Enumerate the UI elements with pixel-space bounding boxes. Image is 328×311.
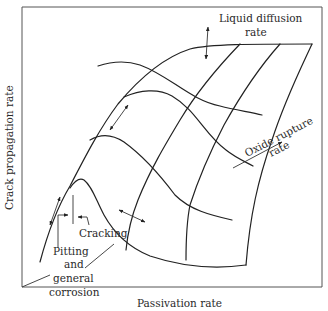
pitting-bracket — [58, 215, 68, 248]
arrow-liquid-diffusion — [206, 27, 208, 59]
pitting-leader — [85, 244, 114, 268]
mesh-row-cracking-peak — [70, 179, 246, 267]
label-pitting-line3: general — [53, 272, 94, 284]
arrow-upper-left — [110, 105, 128, 130]
label-liquid-diffusion-line2: rate — [245, 26, 267, 38]
mesh-row-2 — [124, 91, 253, 166]
mesh-row-3 — [90, 136, 232, 220]
crack-propagation-diagram: Liquid diffusion rate Oxide rupture rate… — [0, 0, 328, 311]
mesh-row-1 — [98, 62, 262, 115]
labels: Liquid diffusion rate Oxide rupture rate… — [3, 12, 315, 309]
x-axis-label: Passivation rate — [137, 297, 222, 309]
label-pitting-line4: corrosion — [49, 286, 100, 298]
label-pitting-line1: Pitting — [53, 245, 89, 257]
label-liquid-diffusion-line1: Liquid diffusion — [219, 12, 303, 24]
label-cracking: Cracking — [79, 227, 128, 239]
arrow-middle — [119, 210, 145, 222]
mesh-column-2 — [186, 44, 280, 260]
corrosion-leader — [22, 275, 50, 287]
cracking-bracket — [78, 217, 89, 225]
label-pitting-line2: and — [64, 258, 84, 270]
surface-arrows — [50, 27, 208, 225]
y-axis-label: Crack propagation rate — [3, 85, 15, 210]
arrow-left-edge — [50, 197, 60, 225]
